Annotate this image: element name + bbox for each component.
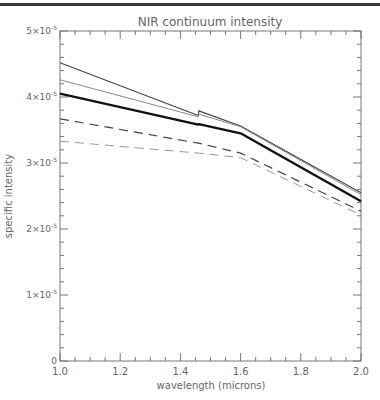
- y-tick-label: 0: [51, 356, 57, 366]
- x-tick-label: 1.4: [172, 366, 188, 377]
- series-dashed-gray: [60, 141, 361, 215]
- x-tick-label: 1.0: [52, 366, 68, 377]
- y-tick-label: 1×10-5: [26, 288, 57, 300]
- x-axis-label: wavelength (microns): [157, 380, 266, 391]
- series-solid-gray-thin: [60, 80, 361, 195]
- x-tick-label: 1.6: [233, 366, 249, 377]
- y-tick-label: 2×10-5: [26, 222, 57, 234]
- chart-title: NIR continuum intensity: [138, 15, 283, 29]
- data-lines: [60, 63, 361, 215]
- y-tick-label: 4×10-5: [26, 90, 57, 102]
- x-tick-label: 1.2: [112, 366, 128, 377]
- axes: 1.01.21.41.61.82.001×10-52×10-53×10-54×1…: [26, 24, 369, 377]
- series-solid-thick: [60, 94, 361, 202]
- series-dashed-dark: [60, 119, 361, 211]
- y-axis-label: specific intensity: [3, 154, 14, 238]
- x-tick-label: 2.0: [353, 366, 369, 377]
- y-tick-label: 5×10-5: [26, 24, 57, 36]
- line-chart: NIR continuum intensity 1.01.21.41.61.82…: [0, 0, 380, 400]
- x-tick-label: 1.8: [293, 366, 309, 377]
- y-tick-label: 3×10-5: [26, 156, 57, 168]
